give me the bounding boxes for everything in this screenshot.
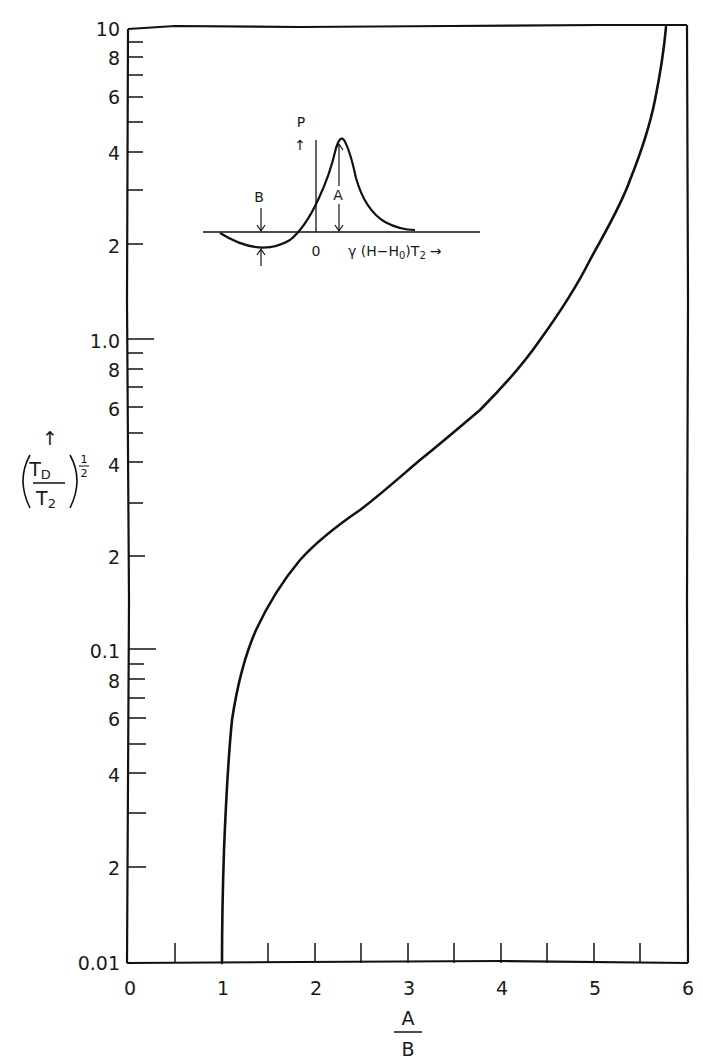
y-title-exponent-num: 1 xyxy=(81,453,88,466)
y-tick-label-0-08: 8 xyxy=(108,670,120,692)
x-tick-label-3: 3 xyxy=(403,977,415,999)
y-axis-tick-labels: 10 8 6 4 2 1.0 8 6 4 2 0.1 8 6 4 2 0.01 xyxy=(78,18,120,974)
y-tick-label-1: 1.0 xyxy=(90,330,120,352)
x-tick-label-0: 0 xyxy=(124,977,136,999)
inset-p-label: P xyxy=(297,114,305,130)
x-title-numerator: A xyxy=(402,1007,415,1029)
y-tick-label-0-02: 2 xyxy=(108,857,120,879)
x-tick-label-6: 6 xyxy=(682,977,694,999)
x-tick-label-5: 5 xyxy=(589,977,601,999)
y-tick-label-0-06: 6 xyxy=(108,708,120,730)
y-axis-ticks xyxy=(128,42,156,867)
x-tick-label-2: 2 xyxy=(310,977,322,999)
y-tick-label-0-6: 6 xyxy=(108,398,120,420)
y-tick-label-8: 8 xyxy=(108,47,120,69)
x-axis-tick-labels: 0 1 2 3 4 5 6 xyxy=(124,977,694,999)
x-tick-label-4: 4 xyxy=(496,977,508,999)
y-title-numerator: TD xyxy=(28,458,51,482)
y-tick-label-0-04: 4 xyxy=(108,764,120,786)
x-tick-label-1: 1 xyxy=(217,977,229,999)
data-curve xyxy=(222,27,666,963)
chart: 10 8 6 4 2 1.0 8 6 4 2 0.1 8 6 4 2 0.01 … xyxy=(0,0,703,1064)
y-tick-label-2: 2 xyxy=(108,235,120,257)
y-tick-label-4: 4 xyxy=(108,142,120,164)
y-tick-label-0-8: 8 xyxy=(108,359,120,381)
y-tick-label-0-01: 0.01 xyxy=(78,952,120,974)
inset-x-label: γ (H−H0)T2→ xyxy=(348,243,442,261)
y-tick-label-6: 6 xyxy=(108,86,120,108)
x-title-denominator: B xyxy=(401,1038,414,1060)
inset-p-arrow-icon: ↑ xyxy=(294,137,306,153)
x-axis-title: A B xyxy=(394,1007,422,1060)
inset-a-label: A xyxy=(333,187,343,203)
y-title-denominator: T2 xyxy=(35,487,56,511)
y-title-exponent-den: 2 xyxy=(81,467,88,480)
inset-b-label: B xyxy=(254,189,264,205)
plot-frame xyxy=(127,25,688,963)
y-tick-label-10: 10 xyxy=(96,18,120,40)
y-tick-label-0-1: 0.1 xyxy=(90,640,120,662)
up-arrow-icon: ↑ xyxy=(42,427,58,449)
inset-origin-label: 0 xyxy=(312,243,321,259)
inset-lineshape: P ↑ B A 0 γ (H−H0)T2→ xyxy=(203,114,480,266)
y-axis-title: ↑ TD T2 1 2 xyxy=(23,427,89,511)
y-tick-label-0-2: 2 xyxy=(108,546,120,568)
x-axis-ticks xyxy=(175,943,640,963)
y-tick-label-0-4: 4 xyxy=(108,454,120,476)
